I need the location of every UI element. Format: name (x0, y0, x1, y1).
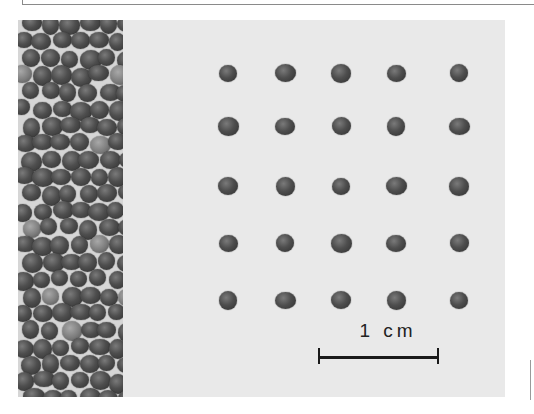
seed (88, 65, 109, 81)
seed (218, 117, 239, 136)
seed (89, 32, 109, 48)
seed (59, 83, 76, 102)
seed (52, 372, 69, 390)
seed-pile (18, 20, 123, 397)
seed (18, 305, 32, 322)
seed (71, 372, 89, 388)
seed (386, 235, 406, 252)
seed (219, 291, 237, 310)
seed (33, 272, 50, 288)
seed (78, 84, 97, 102)
seed (97, 184, 117, 202)
seed (117, 255, 123, 272)
seed (117, 20, 123, 32)
seed (71, 168, 91, 186)
seed (108, 133, 123, 150)
seed (275, 292, 296, 309)
seed (42, 82, 60, 99)
seed (70, 133, 89, 151)
seed (42, 151, 61, 168)
seed (89, 339, 111, 355)
seed (42, 288, 59, 305)
seed (23, 220, 41, 238)
seed (22, 184, 41, 201)
seed (118, 219, 123, 236)
seed (51, 270, 68, 286)
seed (97, 322, 116, 338)
seed (331, 64, 351, 83)
seed (450, 234, 469, 252)
seed (219, 235, 238, 252)
seed (387, 291, 406, 310)
seed (109, 33, 123, 51)
seed (100, 151, 121, 169)
seed (18, 65, 32, 83)
seed (53, 101, 72, 117)
seed (219, 65, 237, 82)
scale-bar (318, 356, 439, 359)
seed (331, 234, 352, 253)
seed (332, 117, 351, 135)
seed (33, 305, 53, 322)
seed (276, 234, 294, 252)
seed (60, 117, 81, 133)
seed (117, 357, 123, 373)
frame-line-top (22, 4, 534, 5)
seed (89, 269, 106, 286)
seed (450, 64, 468, 82)
seed (22, 320, 39, 339)
seed (18, 99, 30, 115)
seed (80, 287, 101, 304)
seed (71, 32, 90, 49)
seed (41, 49, 60, 67)
seed (118, 184, 123, 200)
seed (70, 271, 87, 287)
seed (110, 65, 123, 85)
seed (90, 235, 109, 253)
seed (60, 218, 78, 234)
seed (22, 20, 42, 31)
seed (107, 202, 123, 219)
seed (53, 32, 72, 48)
seed (71, 338, 89, 354)
seed (60, 355, 80, 371)
seed (449, 118, 470, 135)
seed (52, 340, 69, 356)
seed (386, 177, 407, 195)
seed (449, 177, 469, 196)
seed (218, 177, 238, 195)
seed (331, 291, 351, 309)
seed (22, 253, 43, 273)
seed (109, 271, 123, 289)
seed (22, 82, 39, 99)
seed (78, 151, 99, 169)
scale-bar-label: 1 cm (348, 320, 428, 342)
seed (80, 185, 98, 203)
seed (100, 289, 118, 306)
seed (108, 304, 123, 320)
seed (275, 64, 296, 82)
scale-bar-tick-right (437, 348, 439, 364)
seed (80, 20, 101, 31)
seed (41, 322, 58, 340)
seed (450, 292, 468, 309)
seed (40, 218, 57, 235)
seed-photograph: 1 cm (18, 20, 505, 397)
seed (60, 390, 77, 397)
seed (89, 304, 106, 321)
seed (98, 355, 115, 371)
seed (109, 235, 123, 254)
seed (33, 102, 52, 119)
seed (51, 169, 71, 185)
seed (332, 178, 350, 195)
seed (98, 252, 115, 270)
frame-line-right (530, 360, 531, 400)
seed (50, 134, 70, 150)
seed (116, 85, 123, 102)
seed (118, 289, 123, 306)
seed (98, 49, 115, 66)
seed (23, 388, 45, 397)
seed (18, 340, 34, 358)
seed (31, 33, 51, 50)
seed (71, 236, 88, 254)
